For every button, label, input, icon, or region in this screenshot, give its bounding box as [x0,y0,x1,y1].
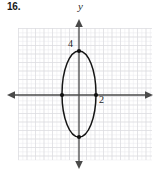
vertex-left-dot [60,93,64,97]
y-axis-bottom-arrow [75,161,83,169]
grid-major-lines [18,28,152,160]
x-intercept-label: 2 [99,94,104,105]
coordinate-plane-graph [0,0,158,173]
y-intercept-label: 4 [68,38,73,49]
y-axis-label: y [78,0,83,12]
x-axis-left-arrow [7,91,15,99]
problem-number-label: 16. [7,1,20,12]
graph-figure: 16. y 4 2 [0,0,158,173]
vertex-bottom-dot [77,135,81,139]
vertex-top-dot [77,49,81,53]
vertex-right-dot [94,93,98,97]
y-axis-top-arrow [75,19,83,27]
grid-minor-lines [18,28,152,160]
